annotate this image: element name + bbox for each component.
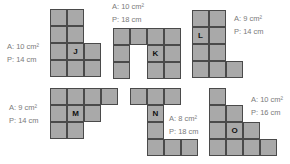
grid-cell <box>192 61 209 78</box>
perimeter-label: P: 14 cm <box>7 53 39 66</box>
grid-cell <box>209 88 226 105</box>
area-label: A: 10 cm² <box>7 40 39 53</box>
shape-measurements: A: 10 cm²P: 14 cm <box>7 40 39 66</box>
grid-cell <box>50 60 67 77</box>
grid-cell <box>226 105 243 122</box>
area-label: A: 10 cm² <box>251 93 283 106</box>
grid-cell <box>147 139 164 156</box>
grid-cell <box>67 9 84 26</box>
grid-cell <box>209 122 226 139</box>
shape-letter: L <box>192 27 209 44</box>
grid-cell <box>209 105 226 122</box>
grid-cell <box>243 139 260 156</box>
grid-cell <box>67 122 84 139</box>
grid-cell <box>164 28 181 45</box>
grid-cell <box>209 139 226 156</box>
grid-cell <box>209 10 226 27</box>
grid-cell <box>113 28 130 45</box>
grid-cell <box>243 122 260 139</box>
grid-cell <box>164 62 181 79</box>
grid-cell <box>260 139 277 156</box>
grid-cell <box>50 122 67 139</box>
grid-cell <box>67 26 84 43</box>
perimeter-label: P: 14 cm <box>9 114 39 127</box>
grid-cell <box>50 43 67 60</box>
grid-cell <box>84 88 101 105</box>
grid-cell <box>209 61 226 78</box>
grid-cell <box>192 44 209 61</box>
grid-cell <box>130 88 147 105</box>
shape-measurements: A: 10 cm²P: 16 cm <box>251 93 283 119</box>
grid-cell <box>147 88 164 105</box>
grid-cell <box>164 45 181 62</box>
shape-letter: N <box>147 105 164 122</box>
perimeter-label: P: 14 cm <box>234 25 264 38</box>
perimeter-label: P: 18 cm <box>112 13 144 26</box>
shape-letter: J <box>67 43 84 60</box>
area-label: A: 8 cm² <box>169 112 199 125</box>
grid-cell <box>164 88 181 105</box>
shape-measurements: A: 9 cm²P: 14 cm <box>234 12 264 38</box>
grid-cell <box>226 139 243 156</box>
grid-cell <box>192 10 209 27</box>
grid-cell <box>147 28 164 45</box>
grid-cell <box>67 60 84 77</box>
grid-cell <box>67 88 84 105</box>
shape-measurements: A: 9 cm²P: 14 cm <box>9 101 39 127</box>
grid-cell <box>50 88 67 105</box>
grid-cell <box>209 27 226 44</box>
grid-cell <box>147 62 164 79</box>
grid-cell <box>50 26 67 43</box>
shape-measurements: A: 8 cm²P: 18 cm <box>169 112 199 138</box>
grid-cell <box>50 9 67 26</box>
area-label: A: 9 cm² <box>9 101 39 114</box>
grid-cell <box>113 62 130 79</box>
grid-cell <box>147 122 164 139</box>
grid-cell <box>84 105 101 122</box>
grid-cell <box>209 44 226 61</box>
area-label: A: 9 cm² <box>234 12 264 25</box>
grid-cell <box>101 88 118 105</box>
grid-cell <box>84 60 101 77</box>
shape-letter: K <box>147 45 164 62</box>
grid-cell <box>226 61 243 78</box>
shape-letter: M <box>67 105 84 122</box>
perimeter-label: P: 18 cm <box>169 125 199 138</box>
grid-cell <box>181 139 198 156</box>
grid-cell <box>113 45 130 62</box>
grid-cell <box>130 28 147 45</box>
shape-letter: O <box>226 122 243 139</box>
area-label: A: 10 cm² <box>112 0 144 13</box>
grid-cell <box>84 43 101 60</box>
grid-cell <box>164 139 181 156</box>
perimeter-label: P: 16 cm <box>251 106 283 119</box>
shape-measurements: A: 10 cm²P: 18 cm <box>112 0 144 26</box>
grid-cell <box>50 105 67 122</box>
